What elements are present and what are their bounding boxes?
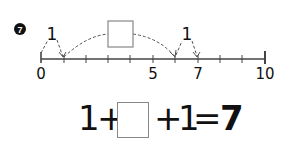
problem-number: 7 [17,25,22,35]
arrowhead-icon [170,50,176,57]
equals-sign: = [193,98,222,138]
hop-label-1: 1 [47,24,58,44]
axis-label-0: 0 [36,65,46,83]
arrowhead-icon [193,52,200,57]
answer-input-box[interactable] [117,102,149,138]
answer-box-diagram[interactable] [108,21,133,47]
ticks [41,51,265,64]
jump-arc-left [64,34,108,57]
axis-label-7: 7 [193,65,203,83]
equation: 1 + + 1 = 7 [0,98,291,138]
jump-arc-right [133,34,175,57]
axis-label-5: 5 [148,65,158,83]
equation-result: 7 [220,98,244,138]
hop-label-2: 1 [182,24,193,44]
axis-label-10: 10 [255,65,274,83]
